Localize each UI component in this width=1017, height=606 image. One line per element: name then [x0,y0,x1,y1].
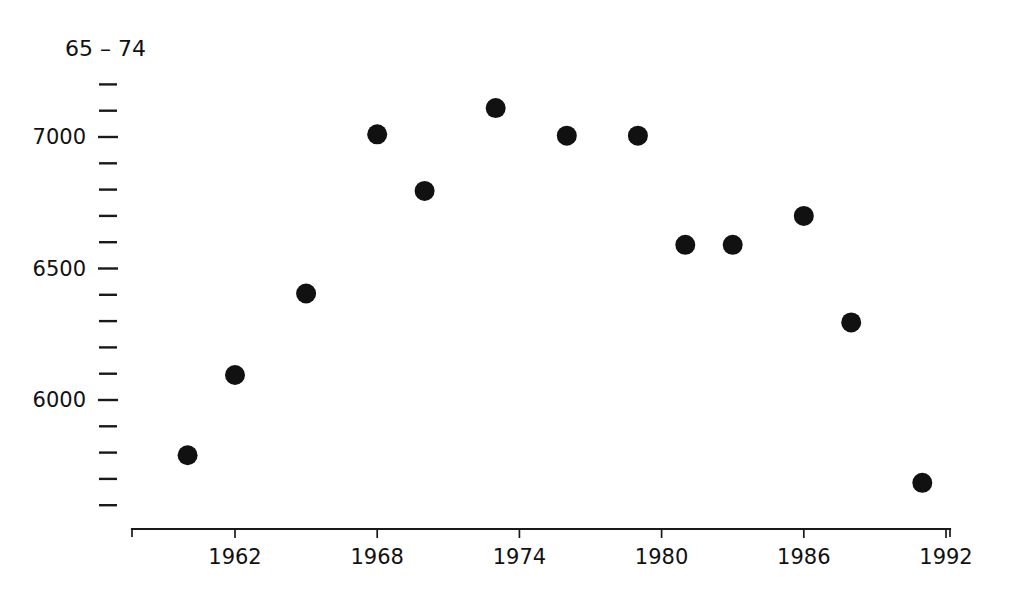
data-point [367,124,387,144]
x-tick-label: 1980 [635,545,688,569]
y-tick-label: 7000 [33,125,86,149]
y-tick-label: 6500 [33,257,86,281]
data-point [225,365,245,385]
data-point [675,235,695,255]
x-axis: 196219681974198019861992 [132,529,973,569]
x-tick-label: 1968 [350,545,403,569]
x-tick-label: 1986 [777,545,830,569]
data-point [841,312,861,332]
y-tick-label: 6000 [33,388,86,412]
data-point [723,235,743,255]
data-points [178,98,933,493]
data-point [486,98,506,118]
data-point [296,283,316,303]
data-point [415,181,435,201]
y-axis-title: 65 – 74 [65,36,146,61]
data-point [628,126,648,146]
y-axis: 600065007000 [33,84,118,505]
data-point [178,445,198,465]
data-point [557,126,577,146]
data-point [794,206,814,226]
x-tick-label: 1974 [493,545,546,569]
x-tick-label: 1992 [919,545,972,569]
data-point [912,473,932,493]
scatter-chart: 600065007000 196219681974198019861992 65… [0,0,1017,606]
x-tick-label: 1962 [208,545,261,569]
chart-canvas: 600065007000 196219681974198019861992 65… [0,0,1017,606]
